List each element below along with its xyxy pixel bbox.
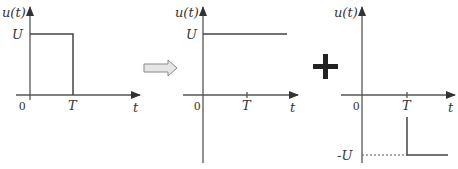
origin-label: 0 <box>19 98 26 113</box>
u-level-label: U <box>12 27 24 42</box>
plot-positive-step: u(t) U 0 T t <box>175 5 298 163</box>
y-axis-label: u(t) <box>334 5 358 20</box>
x-axis-label: t <box>290 100 296 115</box>
y-axis-label: u(t) <box>175 5 199 20</box>
transform-arrow-icon <box>144 60 177 76</box>
x-axis-label: t <box>133 100 139 115</box>
neg-u-level-label: -U <box>337 148 353 163</box>
t-tick-label: T <box>68 98 78 113</box>
t-tick-label: T <box>242 98 252 113</box>
u-level-label: U <box>186 27 198 42</box>
y-axis-label: u(t) <box>2 5 26 20</box>
origin-label: 0 <box>194 98 201 113</box>
plus-operator-icon <box>313 54 338 79</box>
plot-negative-delayed-step: u(t) -U 0 T t <box>334 5 455 163</box>
origin-label: 0 <box>353 98 360 113</box>
t-tick-label: T <box>402 98 412 113</box>
diagram-canvas: u(t) U 0 T t u(t) U 0 T t u(t) -U 0 T t <box>0 0 458 169</box>
plot-rectangular-pulse: u(t) U 0 T t <box>2 5 140 115</box>
pulse-signal <box>30 34 73 95</box>
negative-step-signal <box>407 117 448 155</box>
x-axis-label: t <box>448 100 454 115</box>
